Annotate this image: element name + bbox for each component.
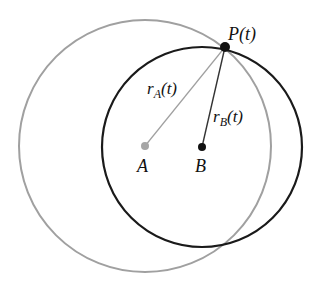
label-a: A bbox=[136, 156, 149, 176]
point-b bbox=[198, 143, 206, 151]
label-radius-b: rB(t) bbox=[213, 107, 243, 129]
two-circles-diagram: P(t) rA(t) rB(t) A B bbox=[0, 0, 320, 282]
label-b: B bbox=[195, 156, 206, 176]
label-radius-a: rA(t) bbox=[147, 79, 177, 101]
point-a bbox=[141, 142, 149, 150]
label-p: P(t) bbox=[227, 24, 256, 45]
